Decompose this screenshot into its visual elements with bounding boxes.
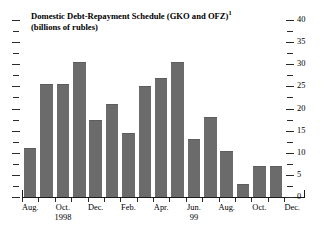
y-tick-right [286, 109, 294, 110]
x-tick [55, 198, 56, 202]
y-tick-left [12, 131, 20, 132]
y-tick-right [286, 20, 294, 21]
bar [73, 62, 85, 197]
y-tick-right [286, 86, 294, 87]
x-label-month: Dec. [284, 203, 300, 212]
y-tick-right [286, 175, 294, 176]
x-label-year: 1998 [43, 213, 83, 222]
bar-slot [235, 20, 251, 197]
y-tick-left [12, 197, 20, 198]
y-tick-label: 10 [297, 148, 319, 157]
y-tick-label: 15 [297, 126, 319, 135]
x-tick [169, 198, 170, 202]
x-tick [284, 198, 285, 202]
bar-slot [153, 20, 169, 197]
bar-slot [55, 20, 71, 197]
x-tick [235, 198, 236, 202]
bar-slot [169, 20, 185, 197]
y-tick-label: 0 [297, 192, 319, 201]
x-tick [153, 198, 154, 202]
x-label-month: Oct. [56, 203, 70, 212]
x-label-month: Feb. [121, 203, 136, 212]
y-tick-label: 35 [297, 37, 319, 46]
bar-slot [88, 20, 104, 197]
bar [155, 78, 167, 197]
bar-slot [137, 20, 153, 197]
x-tick [104, 198, 105, 202]
y-tick-minor-left [13, 97, 19, 98]
bar-series [22, 20, 284, 197]
y-tick-left [12, 64, 20, 65]
x-tick [137, 198, 138, 202]
x-tick [38, 198, 39, 202]
title-footnote-marker: 1 [228, 9, 231, 16]
bar [204, 117, 216, 197]
x-tick [22, 198, 23, 202]
bar-slot [219, 20, 235, 197]
chart-figure: Domestic Debt-Repayment Schedule (GKO an… [0, 0, 327, 232]
x-label-year: 99 [174, 213, 214, 222]
y-tick-minor-right [287, 186, 293, 187]
y-tick-minor-left [13, 31, 19, 32]
x-label-month: Jun. [187, 203, 201, 212]
y-tick-minor-right [287, 97, 293, 98]
bar [237, 184, 249, 197]
y-tick-right [286, 197, 294, 198]
bar [139, 86, 151, 197]
x-label-month: Dec. [88, 203, 104, 212]
y-tick-minor-right [287, 75, 293, 76]
y-tick-minor-left [13, 142, 19, 143]
y-tick-minor-right [287, 164, 293, 165]
bar [24, 148, 36, 197]
x-tick [251, 198, 252, 202]
y-tick-label: 20 [297, 104, 319, 113]
x-tick [268, 198, 269, 202]
y-tick-minor-left [13, 186, 19, 187]
bar [122, 133, 134, 197]
y-tick-right [286, 131, 294, 132]
bar [270, 166, 282, 197]
x-tick [120, 198, 121, 202]
bar [89, 120, 101, 197]
bar-slot [71, 20, 87, 197]
bar [171, 62, 183, 197]
bar-slot [120, 20, 136, 197]
y-tick-left [12, 153, 20, 154]
y-tick-label: 40 [297, 15, 319, 24]
x-label-month: Oct. [252, 203, 266, 212]
x-label-month: Apr. [154, 203, 169, 212]
y-tick-left [12, 42, 20, 43]
x-tick-label: Dec. [272, 203, 312, 212]
y-tick-left [12, 109, 20, 110]
y-tick-minor-right [287, 31, 293, 32]
y-tick-minor-left [13, 75, 19, 76]
y-tick-label: 5 [297, 170, 319, 179]
y-tick-minor-left [13, 164, 19, 165]
x-axis-line [22, 197, 305, 198]
y-tick-label: 25 [297, 81, 319, 90]
bar-slot [38, 20, 54, 197]
y-tick-minor-right [287, 53, 293, 54]
y-tick-label: 30 [297, 59, 319, 68]
x-tick [88, 198, 89, 202]
y-tick-minor-right [287, 120, 293, 121]
y-tick-left [12, 86, 20, 87]
y-tick-right [286, 42, 294, 43]
bar-slot [22, 20, 38, 197]
x-tick [71, 198, 72, 202]
bar [106, 104, 118, 197]
bar [40, 84, 52, 197]
bar-slot [268, 20, 284, 197]
y-tick-right [286, 153, 294, 154]
bar [57, 84, 69, 197]
plot-area [22, 20, 284, 197]
bar-slot [251, 20, 267, 197]
y-tick-minor-left [13, 53, 19, 54]
x-tick [202, 198, 203, 202]
y-tick-right [286, 64, 294, 65]
x-tick [219, 198, 220, 202]
x-label-month: Aug. [22, 203, 39, 212]
bar-slot [202, 20, 218, 197]
bar [253, 166, 265, 197]
y-tick-minor-right [287, 142, 293, 143]
